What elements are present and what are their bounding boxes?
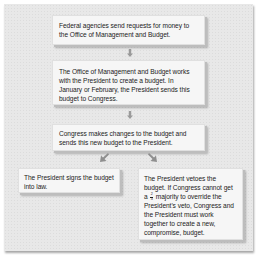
outcome-sign-text: The President signs the budget into law. [24,173,114,191]
step-3-box: Congress makes changes to the budget and… [52,124,205,151]
step-1-box: Federal agencies send requests for money… [52,15,205,45]
veto-text-after: majority to override the President's vet… [144,193,234,236]
step-1-text: Federal agencies send requests for money… [59,21,198,39]
arrow-down-right-icon [148,153,157,162]
fraction-denominator: 3 [151,198,153,202]
arrow-down-left-icon [100,153,109,162]
outcome-veto-text: The President vetoes the budget. If Cong… [144,174,237,237]
step-2-box: The Office of Management and Budget work… [52,60,205,105]
two-thirds-fraction: 2 3 [150,193,153,201]
step-3-text: Congress makes changes to the budget and… [59,129,198,147]
outcome-sign-box: The President signs the budget into law. [18,168,120,193]
arrow-down-icon [127,49,133,57]
step-2-text: The Office of Management and Budget work… [59,67,198,103]
outcome-veto-box: The President vetoes the budget. If Cong… [138,168,243,240]
arrow-down-icon [127,111,133,119]
